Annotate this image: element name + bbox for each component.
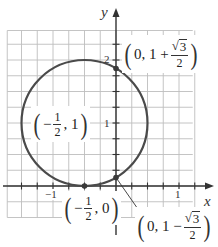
radicand: 3 bbox=[179, 39, 188, 54]
close-paren: ) bbox=[191, 39, 198, 69]
fraction: √ 3 2 bbox=[184, 211, 202, 241]
close-paren: ) bbox=[204, 211, 211, 241]
label-rest: , 1 bbox=[62, 117, 79, 132]
minus-sign: − bbox=[73, 201, 83, 216]
x-axis-arrow-icon bbox=[205, 183, 214, 190]
numerator-sqrt: √ 3 bbox=[171, 39, 189, 56]
denominator: 2 bbox=[190, 228, 196, 241]
open-paren: ( bbox=[34, 109, 41, 139]
fraction: 1 2 bbox=[84, 195, 92, 222]
radicand: 3 bbox=[192, 211, 201, 226]
point-bottom bbox=[82, 183, 88, 189]
numerator: 1 bbox=[53, 111, 61, 125]
x-tick-label-neg-one: −1 bbox=[44, 189, 58, 200]
bottom-point-label: ( − 1 2 , 0 ) bbox=[62, 191, 121, 225]
fraction: √ 3 2 bbox=[171, 39, 189, 69]
radical-sign: √ bbox=[185, 211, 192, 224]
y-tick-label-two: 2 bbox=[103, 54, 111, 65]
y-axis-label: y bbox=[101, 5, 108, 20]
fraction: 1 2 bbox=[53, 111, 61, 138]
x-tick-label-one: 1 bbox=[174, 189, 182, 200]
open-paren: ( bbox=[65, 193, 72, 223]
denominator: 2 bbox=[85, 209, 91, 222]
label-prefix: 0, 1 − bbox=[146, 219, 183, 234]
point-upper-y-intercept bbox=[113, 66, 119, 72]
label-prefix: 0, 1 + bbox=[133, 47, 170, 62]
numerator-sqrt: √ 3 bbox=[184, 211, 202, 228]
open-paren: ( bbox=[138, 211, 145, 241]
center-point-label: ( − 1 2 , 1 ) bbox=[31, 106, 90, 142]
lower-intercept-label: ( 0, 1 − √ 3 2 ) bbox=[135, 207, 213, 245]
minus-sign: − bbox=[42, 117, 52, 132]
point-lower-y-intercept bbox=[113, 175, 119, 181]
numerator: 1 bbox=[84, 195, 92, 209]
open-paren: ( bbox=[125, 39, 132, 69]
close-paren: ) bbox=[112, 193, 119, 223]
close-paren: ) bbox=[81, 109, 88, 139]
y-tick-label-one: 1 bbox=[103, 118, 111, 129]
label-rest: , 0 bbox=[93, 201, 110, 216]
radical-sign: √ bbox=[172, 39, 179, 52]
denominator: 2 bbox=[54, 125, 60, 138]
upper-intercept-label: ( 0, 1 + √ 3 2 ) bbox=[122, 35, 200, 73]
y-axis-arrow-icon bbox=[113, 8, 120, 17]
denominator: 2 bbox=[177, 56, 183, 69]
